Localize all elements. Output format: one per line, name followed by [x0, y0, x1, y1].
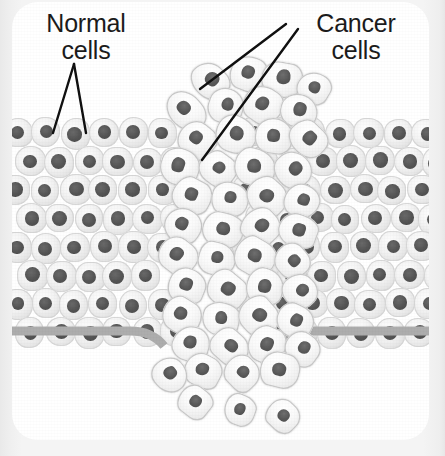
cancer-cell-nucleus	[169, 156, 187, 174]
cancer-cell-nucleus	[258, 335, 275, 353]
cancer-cell-nucleus	[286, 159, 305, 178]
cancer-cell-nucleus	[295, 191, 311, 208]
cancer-cell-nucleus	[288, 311, 305, 329]
cancer-cell-nucleus	[227, 123, 246, 142]
cell-invasion-figure: Normal cells Cancer cells	[0, 0, 445, 456]
cancer-cell-nucleus	[285, 251, 303, 269]
cancer-cell-nucleus	[167, 244, 186, 263]
cancer-cell-nucleus	[223, 189, 239, 205]
cancer-cell-nucleus	[220, 96, 236, 112]
cancer-cell-nucleus	[240, 64, 257, 81]
cancer-cell-nucleus	[276, 407, 293, 424]
cancer-cell-nucleus	[253, 94, 272, 113]
cancer-cell-mass-layer	[12, 2, 429, 440]
cancer-cell-nucleus	[210, 158, 228, 176]
cancer-cell-nucleus	[271, 361, 287, 377]
cancer-cell-nucleus	[219, 279, 239, 299]
cancer-cell-nucleus	[202, 69, 222, 89]
cancer-cell-nucleus	[233, 401, 247, 416]
cancer-cell-nucleus	[266, 128, 281, 143]
cancer-cell-nucleus	[294, 281, 312, 299]
cancer-cell-nucleus	[291, 221, 308, 238]
label-cancer-cells: Cancer cells	[290, 10, 422, 64]
cancer-cell-nucleus	[257, 186, 277, 206]
cancer-cell-nucleus	[295, 338, 312, 356]
cancer-cell-nucleus	[215, 221, 231, 237]
cancer-cell-nucleus	[173, 214, 191, 233]
illustration-card: Normal cells Cancer cells	[12, 2, 429, 440]
cancer-cell	[219, 389, 260, 430]
cancer-cell-nucleus	[214, 310, 229, 325]
cancer-cell-nucleus	[246, 158, 263, 174]
cancer-cell-nucleus	[182, 185, 200, 203]
cancer-cell-nucleus	[256, 278, 272, 295]
cancer-cell-nucleus	[235, 363, 253, 381]
cancer-cell-nucleus	[194, 360, 211, 377]
cancer-cell-nucleus	[188, 393, 205, 410]
cancer-cell-nucleus	[174, 97, 193, 117]
cancer-cell-nucleus	[178, 275, 195, 293]
cancer-cell-nucleus	[182, 334, 198, 351]
cancer-cell-nucleus	[301, 129, 320, 148]
cancer-cell-nucleus	[210, 249, 226, 265]
cancer-cell-nucleus	[250, 305, 270, 325]
cancer-cell-nucleus	[307, 79, 323, 95]
cancer-cell-nucleus	[253, 215, 272, 234]
cancer-cell	[260, 393, 307, 440]
cancer-cell-nucleus	[245, 246, 264, 265]
cancer-cell-nucleus	[171, 304, 190, 323]
label-normal-cells: Normal cells	[20, 10, 152, 64]
cancer-cell-nucleus	[292, 101, 308, 117]
cancer-cell-nucleus	[275, 68, 292, 85]
cancer-cell-nucleus	[222, 336, 241, 355]
cancer-cell-nucleus	[161, 364, 179, 382]
cancer-cell-nucleus	[187, 128, 205, 146]
